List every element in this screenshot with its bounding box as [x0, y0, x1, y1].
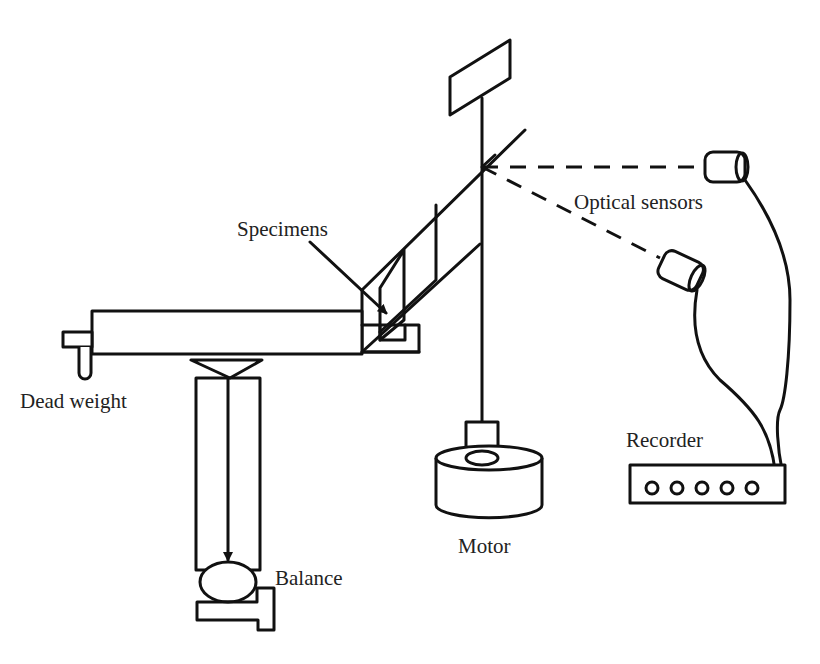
flag	[450, 40, 510, 115]
loading-arm	[92, 311, 419, 354]
motor	[436, 422, 542, 518]
balance	[197, 562, 274, 630]
sensor-wires	[695, 180, 790, 470]
label-dead-weight: Dead weight	[20, 389, 127, 413]
balance-column	[191, 360, 262, 570]
label-specimens: Specimens	[237, 217, 328, 241]
label-optical-sensors: Optical sensors	[574, 190, 703, 214]
label-motor: Motor	[458, 534, 511, 558]
rotating-disk	[362, 130, 525, 352]
optical-sensor-1	[705, 152, 748, 182]
label-recorder: Recorder	[626, 428, 703, 452]
apparatus-diagram: Specimens Optical sensors Dead weight Re…	[0, 0, 820, 664]
label-balance: Balance	[275, 566, 343, 590]
dead-weight	[63, 332, 92, 379]
recorder	[630, 465, 785, 503]
optical-sensor-2	[655, 248, 708, 294]
